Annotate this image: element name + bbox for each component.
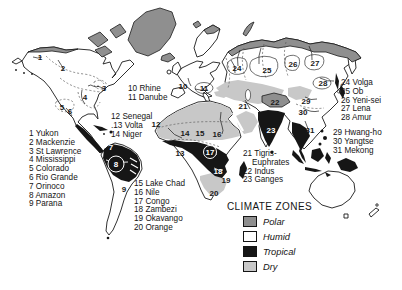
map-marker-17: 17 (206, 148, 215, 157)
legend-label: Polar (263, 217, 285, 227)
legend-item-polar: Polar (243, 214, 312, 229)
river-list-line: 24 Volga (341, 78, 381, 87)
river-list-line: 22 Indus (243, 167, 289, 176)
map-marker-27: 27 (311, 59, 320, 68)
river-list-line: 27 Lena (341, 104, 381, 113)
map-marker-25: 25 (263, 66, 272, 75)
sulawesi (325, 152, 331, 164)
river-list-north-asia: 24 Volga25 Ob26 Yeni-sei27 Lena28 Amur (341, 78, 381, 122)
river-list-south-asia: 21 Tigris- Euphrates22 Indus23 Ganges (243, 149, 289, 184)
legend-item-dry: Dry (243, 259, 312, 274)
legend-items: PolarHumidTropicalDry (227, 214, 312, 274)
river-list-line: 30 Yangtse (333, 137, 382, 146)
map-marker-18: 18 (214, 167, 223, 176)
map-marker-16: 16 (213, 130, 222, 139)
legend-swatch-dry (243, 261, 257, 272)
river-list-line: 11 Danube (128, 93, 167, 102)
map-marker-20: 20 (210, 189, 219, 198)
tierra-del-fuego (107, 237, 110, 240)
map-marker-3: 3 (102, 84, 107, 93)
novaya-zemlya (243, 22, 254, 36)
ireland (167, 70, 171, 74)
map-marker-8: 8 (114, 160, 119, 169)
river-list-line: 21 Tigris- (243, 149, 289, 158)
map-marker-10: 10 (179, 82, 188, 91)
river-list-line: Euphrates (243, 158, 289, 167)
river-list-line: 28 Amur (341, 113, 381, 122)
river-list-africa: 15 Lake Chad16 Nile17 Congo18 Zambezi19 … (134, 180, 185, 233)
map-marker-23: 23 (267, 126, 276, 135)
new-guinea (337, 158, 358, 172)
river-list-line: 29 Hwang-ho (333, 128, 382, 137)
alaska-peninsula (12, 58, 22, 64)
philippines-1 (321, 130, 324, 133)
map-marker-30: 30 (299, 108, 308, 117)
iceland (161, 53, 175, 62)
river-list-line: 31 Mekong (333, 146, 382, 155)
aleutian-3 (31, 73, 33, 75)
cuba (93, 125, 108, 131)
legend-title: CLIMATE ZONES (227, 201, 312, 212)
aleutian-1 (15, 69, 17, 71)
climate-zones-map-figure: 1234567891011121314151617181920212223242… (0, 0, 402, 290)
map-marker-29: 29 (302, 97, 311, 106)
river-list-line: 14 Niger (111, 130, 152, 139)
philippines-2 (323, 136, 327, 140)
java (305, 167, 322, 172)
river-list-line: 12 Senegal (111, 112, 152, 121)
river-list-line: 9 Parana (29, 200, 81, 209)
map-marker-7: 7 (109, 143, 114, 152)
map-marker-19: 19 (222, 176, 231, 185)
legend-swatch-polar (243, 216, 257, 227)
legend-swatch-tropical (243, 246, 257, 257)
australia (309, 171, 355, 208)
map-marker-22: 22 (271, 98, 280, 107)
arctic-island-2 (110, 24, 126, 38)
legend-label: Tropical (263, 247, 295, 257)
aleutian-2 (23, 72, 25, 74)
map-marker-24: 24 (233, 64, 242, 73)
map-marker-11: 11 (200, 84, 209, 93)
river-list-europe: 10 Rhine11 Danube (128, 84, 167, 102)
philippines-3 (319, 143, 322, 146)
map-marker-26: 26 (289, 60, 298, 69)
new-zealand-north (376, 204, 378, 206)
map-marker-31: 31 (306, 126, 315, 135)
river-list-line: 20 Orange (134, 224, 185, 233)
svalbard (193, 21, 201, 28)
river-list-line: 23 Ganges (243, 175, 289, 184)
caspian-sea (245, 90, 250, 101)
new-zealand (369, 208, 379, 217)
greenland (128, 8, 176, 56)
river-list-line: 25 Ob (341, 87, 381, 96)
map-marker-12: 12 (152, 120, 161, 129)
river-list-line: .13 Volta (111, 121, 152, 130)
tasmania (344, 214, 348, 218)
arctic-island-1 (88, 32, 108, 47)
river-list-line: 26 Yeni-sei (341, 96, 381, 105)
legend-label: Humid (263, 232, 290, 242)
river-list-north-america: 1 Yukon2 Mackenzie3 St Lawrence4 Mississ… (29, 130, 81, 209)
map-marker-2: 2 (61, 64, 66, 73)
map-marker-13: 13 (176, 149, 185, 158)
legend: CLIMATE ZONES PolarHumidTropicalDry (227, 201, 312, 274)
map-marker-15: 15 (196, 129, 205, 138)
map-marker-6: 6 (68, 107, 73, 116)
river-list-line: 10 Rhine (128, 84, 167, 93)
river-list-west-africa: 12 Senegal.13 Volta14 Niger (111, 112, 152, 138)
legend-swatch-humid (243, 231, 257, 242)
map-marker-21: 21 (239, 102, 248, 111)
map-marker-14: 14 (181, 129, 190, 138)
borneo (311, 148, 324, 162)
map-marker-9: 9 (122, 185, 127, 194)
jamaica (103, 133, 105, 135)
map-marker-5: 5 (60, 103, 65, 112)
map-marker-1: 1 (38, 53, 43, 62)
river-list-east-asia: 29 Hwang-ho30 Yangtse31 Mekong (333, 128, 382, 154)
map-marker-4: 4 (83, 93, 88, 102)
legend-item-humid: Humid (243, 229, 312, 244)
map-marker-28: 28 (319, 79, 328, 88)
legend-item-tropical: Tropical (243, 244, 312, 259)
legend-label: Dry (263, 262, 277, 272)
